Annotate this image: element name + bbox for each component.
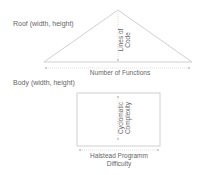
roof-width-label: Number of Functions	[68, 69, 172, 77]
body-width-label: Halstead Programm Difficulty	[78, 152, 160, 168]
body-title: Body (width, height)	[13, 79, 75, 86]
roof-height-label: Lines of Code	[117, 20, 131, 60]
body-height-label: Cyclomatic Complexity	[117, 93, 131, 143]
roof-title: Roof (width, height)	[13, 20, 74, 27]
